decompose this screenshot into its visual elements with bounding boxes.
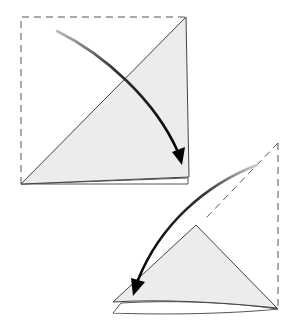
folded-triangle-2 (113, 225, 277, 308)
step-1-diagram (21, 17, 189, 184)
folded-triangle (21, 17, 189, 184)
dashed-diagonal (206, 143, 278, 218)
origami-diagram (0, 0, 294, 328)
diagram-canvas (0, 0, 294, 328)
